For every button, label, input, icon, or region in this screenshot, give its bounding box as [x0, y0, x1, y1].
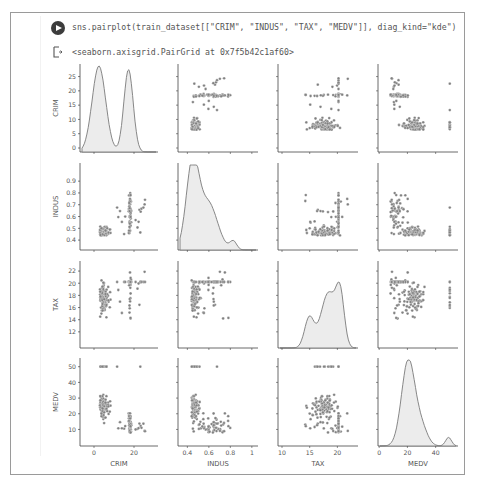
svg-text:15: 15	[68, 101, 76, 108]
svg-text:0.8: 0.8	[225, 449, 235, 456]
svg-text:1: 1	[250, 449, 254, 456]
x-axis-label: TAX	[311, 460, 325, 468]
svg-text:20: 20	[403, 449, 411, 456]
svg-text:20: 20	[68, 280, 76, 287]
panel-medv-vs-crim: 1020304050MEDV020CRIM	[52, 358, 158, 468]
svg-text:22: 22	[68, 267, 76, 274]
panel-indus-vs-crim: 0.40.50.60.70.80.9INDUS	[52, 163, 158, 252]
svg-text:10: 10	[68, 426, 76, 433]
panel-medv-vs-medv: 02040MEDV	[376, 358, 458, 468]
panel-tax-vs-medv	[376, 261, 458, 350]
panel-indus-vs-medv	[376, 163, 458, 252]
svg-text:10: 10	[278, 449, 286, 456]
svg-text:0: 0	[377, 449, 381, 456]
svg-text:30: 30	[68, 394, 76, 401]
svg-text:10: 10	[68, 116, 76, 123]
svg-text:0: 0	[92, 449, 96, 456]
x-axis-label: MEDV	[408, 460, 428, 468]
svg-text:0.6: 0.6	[66, 213, 76, 220]
svg-text:20: 20	[333, 449, 341, 456]
panel-tax-vs-indus	[176, 261, 258, 350]
svg-text:20: 20	[68, 410, 76, 417]
svg-text:16: 16	[68, 304, 76, 311]
svg-text:0.4: 0.4	[182, 449, 192, 456]
svg-text:20: 20	[130, 449, 138, 456]
svg-text:0.8: 0.8	[66, 189, 76, 196]
svg-text:20: 20	[68, 87, 76, 94]
svg-text:0.7: 0.7	[66, 201, 76, 208]
svg-text:0.6: 0.6	[204, 449, 214, 456]
svg-text:0.9: 0.9	[66, 177, 76, 184]
svg-text:18: 18	[68, 292, 76, 299]
y-axis-label: CRIM	[52, 99, 60, 116]
svg-text:40: 40	[432, 449, 440, 456]
x-axis-label: INDUS	[207, 460, 229, 468]
svg-text:5: 5	[72, 130, 76, 137]
panel-crim-vs-indus	[176, 64, 258, 154]
panel-tax-vs-crim: 121416182022TAX	[52, 261, 158, 350]
panel-tax-vs-tax	[276, 261, 358, 350]
svg-text:25: 25	[68, 73, 76, 80]
svg-text:15: 15	[306, 449, 314, 456]
panel-indus-vs-indus	[176, 163, 258, 252]
pairplot-figure: 0510152025CRIM0.40.50.60.70.80.9INDUS121…	[0, 0, 496, 482]
y-axis-label: TAX	[52, 298, 60, 312]
x-axis-label: CRIM	[110, 460, 127, 468]
panel-medv-vs-tax: 101520TAX	[276, 358, 358, 468]
svg-text:40: 40	[68, 379, 76, 386]
svg-text:0: 0	[72, 144, 76, 151]
panel-indus-vs-tax	[276, 163, 358, 252]
panel-medv-vs-indus: 0.40.60.81INDUS	[176, 358, 258, 468]
svg-text:0.4: 0.4	[66, 236, 76, 243]
panel-crim-vs-tax	[276, 64, 358, 154]
svg-text:12: 12	[68, 328, 76, 335]
panel-crim-vs-crim: 0510152025CRIM	[52, 64, 158, 154]
panel-crim-vs-medv	[376, 64, 458, 154]
y-axis-label: INDUS	[52, 196, 60, 218]
y-axis-label: MEDV	[52, 392, 60, 412]
svg-text:50: 50	[68, 363, 76, 370]
svg-text:0.5: 0.5	[66, 225, 76, 232]
svg-text:14: 14	[68, 316, 76, 323]
